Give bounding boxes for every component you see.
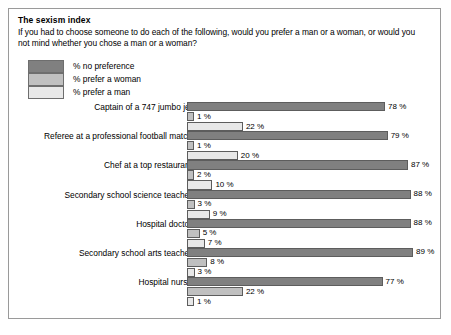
bar-group: Referee at a professional football match… bbox=[9, 131, 441, 160]
bar bbox=[187, 170, 194, 179]
bar-value-label: 77 % bbox=[386, 277, 404, 287]
bar-value-label: 10 % bbox=[215, 180, 233, 190]
bar-chart-plot: Captain of a 747 jumbo jet78 %1 %22 %Ref… bbox=[9, 102, 441, 306]
bar-value-label: 5 % bbox=[203, 228, 217, 238]
bar bbox=[187, 180, 212, 189]
bar-value-label: 79 % bbox=[391, 131, 409, 141]
bar bbox=[187, 122, 243, 131]
legend-item: % prefer a man bbox=[28, 86, 228, 99]
category-label: Chef at a top restaurant bbox=[17, 160, 192, 170]
bar-value-label: 22 % bbox=[246, 122, 264, 132]
category-label: Secondary school science teacher bbox=[17, 190, 192, 200]
bar-value-label: 7 % bbox=[208, 238, 222, 248]
chart-header: The sexism index If you had to choose so… bbox=[18, 15, 428, 49]
legend-swatch bbox=[28, 60, 64, 73]
bar-group: Secondary school science teacher88 %3 %9… bbox=[9, 190, 441, 219]
bar bbox=[187, 190, 411, 199]
chart-legend: % no preference% prefer a woman% prefer … bbox=[28, 60, 228, 99]
bar bbox=[187, 219, 411, 228]
bar-value-label: 78 % bbox=[388, 102, 406, 112]
bar bbox=[187, 268, 195, 277]
category-label: Captain of a 747 jumbo jet bbox=[17, 102, 192, 112]
bar-value-label: 89 % bbox=[416, 247, 434, 257]
bar bbox=[187, 239, 205, 248]
category-label: Secondary school arts teacher bbox=[17, 248, 192, 258]
bar bbox=[187, 229, 200, 238]
bar bbox=[187, 112, 194, 121]
bar-value-label: 8 % bbox=[210, 257, 224, 267]
bar bbox=[187, 210, 210, 219]
legend-swatch bbox=[28, 73, 64, 86]
bar bbox=[187, 248, 413, 257]
legend-label: % prefer a man bbox=[73, 87, 130, 98]
bar-value-label: 1 % bbox=[197, 141, 211, 151]
bar bbox=[187, 277, 383, 286]
chart-panel: The sexism index If you had to choose so… bbox=[8, 8, 441, 319]
bar-value-label: 1 % bbox=[197, 297, 211, 307]
legend-item: % prefer a woman bbox=[28, 73, 228, 86]
bar-group: Hospital nurse77 %22 %1 % bbox=[9, 277, 441, 306]
chart-title: The sexism index bbox=[18, 15, 428, 26]
bar bbox=[187, 141, 194, 150]
bar-value-label: 22 % bbox=[246, 287, 264, 297]
bar bbox=[187, 287, 243, 296]
bar-value-label: 88 % bbox=[414, 189, 432, 199]
bar-value-label: 3 % bbox=[198, 267, 212, 277]
bar-value-label: 1 % bbox=[197, 112, 211, 122]
bar-value-label: 2 % bbox=[197, 170, 211, 180]
bar-value-label: 3 % bbox=[198, 199, 212, 209]
legend-label: % no preference bbox=[73, 61, 134, 72]
bar bbox=[187, 160, 408, 169]
bar bbox=[187, 102, 385, 111]
bar bbox=[187, 297, 194, 306]
legend-swatch bbox=[28, 86, 64, 99]
bar-value-label: 20 % bbox=[241, 151, 259, 161]
bar-group: Captain of a 747 jumbo jet78 %1 %22 % bbox=[9, 102, 441, 131]
bar bbox=[187, 200, 195, 209]
category-label: Hospital nurse bbox=[17, 277, 192, 287]
bar-group: Hospital doctor88 %5 %7 % bbox=[9, 219, 441, 248]
bar-value-label: 88 % bbox=[414, 218, 432, 228]
category-label: Hospital doctor bbox=[17, 219, 192, 229]
bar-group: Chef at a top restaurant87 %2 %10 % bbox=[9, 160, 441, 189]
bar bbox=[187, 258, 207, 267]
bar bbox=[187, 151, 238, 160]
bar-value-label: 9 % bbox=[213, 209, 227, 219]
bar-value-label: 87 % bbox=[411, 160, 429, 170]
bar bbox=[187, 131, 388, 140]
category-label: Referee at a professional football match bbox=[17, 131, 192, 141]
legend-item: % no preference bbox=[28, 60, 228, 73]
chart-question: If you had to choose someone to do each … bbox=[18, 27, 428, 49]
legend-label: % prefer a woman bbox=[73, 74, 141, 85]
bar-group: Secondary school arts teacher89 %8 %3 % bbox=[9, 248, 441, 277]
